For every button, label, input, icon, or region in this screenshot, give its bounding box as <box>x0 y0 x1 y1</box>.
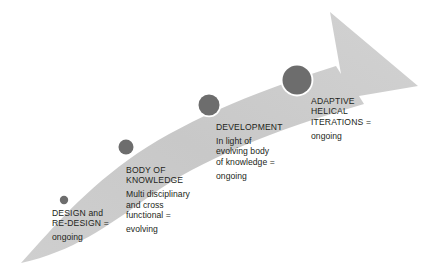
milestone-status-adaptive-helical-iterations: ongoing <box>311 131 371 141</box>
milestone-label-design: DESIGN and RE-DESIGN = ongoing <box>52 208 109 243</box>
milestone-title-design: DESIGN and RE-DESIGN = <box>52 208 109 229</box>
milestone-label-adaptive-helical-iterations: ADAPTIVE HELICAL ITERATIONS = ongoing <box>311 96 371 141</box>
milestone-title-body-of-knowledge: BODY OF KNOWLEDGE <box>126 165 190 186</box>
milestone-dot-adaptive-helical-iterations[interactable] <box>283 66 312 95</box>
milestone-label-development: DEVELOPMENT In light of evolving body of… <box>216 122 283 181</box>
milestone-dot-body-of-knowledge[interactable] <box>119 140 134 155</box>
milestone-title-development: DEVELOPMENT <box>216 122 283 132</box>
milestone-status-design: ongoing <box>52 232 109 242</box>
milestone-description-body-of-knowledge: Multi disciplinary and cross functional … <box>126 189 190 220</box>
milestone-status-body-of-knowledge: evolving <box>126 224 190 234</box>
milestone-dot-design[interactable] <box>60 196 68 204</box>
milestone-dot-development[interactable] <box>199 95 220 116</box>
milestone-title-adaptive-helical-iterations: ADAPTIVE HELICAL ITERATIONS = <box>311 96 371 127</box>
milestone-label-body-of-knowledge: BODY OF KNOWLEDGE Multi disciplinary and… <box>126 165 190 235</box>
milestone-status-development: ongoing <box>216 171 283 181</box>
diagram-canvas: DESIGN and RE-DESIGN = ongoing BODY OF K… <box>0 0 422 273</box>
milestone-description-development: In light of evolving body of knowledge = <box>216 136 283 167</box>
